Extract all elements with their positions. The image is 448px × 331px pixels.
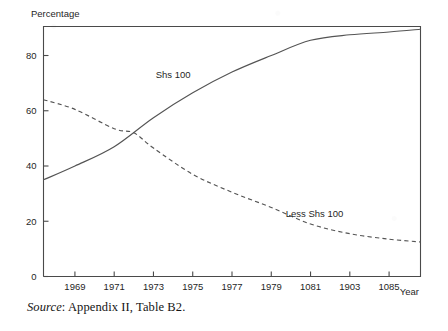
x-tick-label: 1085 [379,281,400,292]
plot-frame [44,27,421,277]
x-tick-label: 1969 [64,281,85,292]
chart-figure: 196919711973197519771979108119031085 020… [0,0,448,331]
y-tick-label: 80 [26,50,37,61]
source-note: Source: Appendix II, Table B2. [27,300,185,315]
x-axis-ticks [75,272,389,277]
series-label: Less Shs 100 [286,208,344,219]
y-tick-label: 0 [31,271,36,282]
y-tick-label: 20 [26,216,37,227]
x-tick-label: 1977 [221,281,242,292]
x-tick-label: 1971 [104,281,125,292]
y-axis-title: Percentage [31,8,80,19]
x-axis-title: Year [400,286,419,297]
series-annotations: Shs 100Less Shs 100 [156,69,344,220]
y-axis-tick-labels: 020406080 [26,50,37,282]
x-tick-label: 1081 [300,281,321,292]
x-tick-label: 1975 [182,281,203,292]
x-tick-label: 1903 [339,281,360,292]
series-layer [44,29,421,242]
y-axis-ticks [44,56,49,277]
y-tick-label: 40 [26,160,37,171]
series-line-2 [44,100,421,242]
source-reference: : Appendix II, Table B2. [62,300,186,314]
line-chart: 196919711973197519771979108119031085 020… [0,0,448,331]
x-axis-tick-labels: 196919711973197519771979108119031085 [64,281,399,292]
source-label: Source [27,300,62,314]
series-label: Shs 100 [156,69,191,80]
x-tick-label: 1979 [261,281,282,292]
y-tick-label: 60 [26,105,37,116]
x-tick-label: 1973 [143,281,164,292]
series-line-1 [44,29,421,180]
